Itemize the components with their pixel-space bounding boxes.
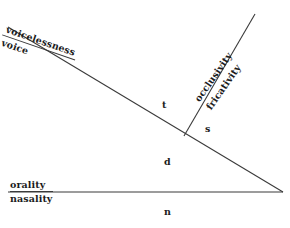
phoneme-label-s: s xyxy=(205,124,210,134)
phoneme-label-n: n xyxy=(164,207,171,217)
orality-axis-fraction: orality nasality xyxy=(10,180,53,203)
phoneme-label-t: t xyxy=(162,100,166,110)
phoneme-label-d: d xyxy=(164,157,171,167)
phonology-feature-diagram: voicelessness voice occlusivity fricativ… xyxy=(0,0,290,228)
orality-axis-denominator: nasality xyxy=(10,192,53,203)
orality-axis-numerator: orality xyxy=(10,180,53,192)
